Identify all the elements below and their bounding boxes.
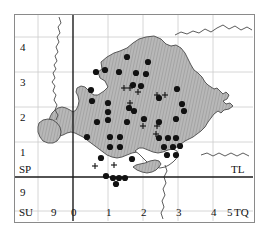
y-axis-label-9: 9 <box>20 187 26 198</box>
y-axis-label-3: 3 <box>20 77 26 88</box>
y-axis-label-2: 2 <box>20 112 26 123</box>
grid-square-label-tl: TL <box>231 164 244 175</box>
x-axis-label-9: 9 <box>51 207 57 218</box>
species-range-polygon <box>38 36 233 173</box>
distribution-map-figure: 4 3 2 1 SP 9 SU 9 0 1 2 3 4 5 TL TQ <box>0 0 269 237</box>
x-axis-label-5: 5 <box>227 207 233 218</box>
y-axis-label-1: 1 <box>20 147 26 158</box>
grid-square-label-sp: SP <box>19 164 31 175</box>
map-frame: 4 3 2 1 SP 9 SU 9 0 1 2 3 4 5 TL TQ <box>14 14 255 223</box>
x-axis-label-0: 0 <box>71 207 77 218</box>
grid-square-label-tq: TQ <box>234 207 249 218</box>
map-canvas <box>15 15 253 221</box>
x-axis-label-2: 2 <box>141 207 147 218</box>
x-axis-label-1: 1 <box>106 207 112 218</box>
x-axis-label-3: 3 <box>176 207 182 218</box>
y-axis-label-4: 4 <box>20 42 26 53</box>
grid-square-label-su: SU <box>19 207 33 218</box>
x-axis-label-4: 4 <box>211 207 217 218</box>
